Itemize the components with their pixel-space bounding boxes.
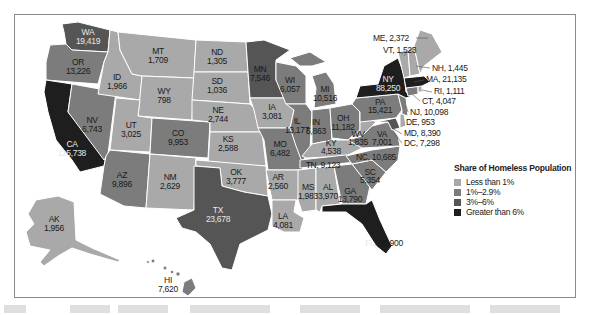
label-mn: MN7,546 (250, 64, 270, 83)
legend-item-greater-than-6: Greater than 6% (454, 207, 571, 217)
cropped-caption (0, 302, 591, 315)
svg-text:5,354: 5,354 (360, 175, 380, 185)
svg-text:19,419: 19,419 (76, 36, 101, 46)
label-az: AZ9,896 (112, 170, 132, 189)
label-hi: HI7,620 (158, 275, 178, 294)
label-tn: TN, 9,123 (306, 160, 341, 170)
svg-text:6,743: 6,743 (82, 124, 102, 134)
label-la: LA4,081 (273, 211, 293, 230)
label-ny: NY88,250 (376, 74, 401, 93)
callout-ri: RI, 1,111 (434, 86, 465, 96)
label-va: VA7,001 (372, 129, 392, 147)
callout-md: MD, 8,390 (404, 128, 441, 138)
label-tx: TX23,678 (206, 205, 231, 224)
svg-text:4,081: 4,081 (273, 220, 293, 230)
label-ak: AK1,956 (44, 214, 64, 233)
svg-text:7,001: 7,001 (372, 137, 392, 147)
svg-text:2,744: 2,744 (208, 114, 228, 124)
legend-swatch (454, 179, 461, 186)
callout-nj: NJ, 10,098 (410, 107, 449, 117)
label-id: ID1,966 (107, 72, 127, 91)
label-mi: MI10,516 (313, 84, 338, 103)
svg-text:13,790: 13,790 (338, 194, 363, 204)
legend-swatch (454, 189, 461, 196)
svg-text:13,226: 13,226 (66, 66, 91, 76)
callout-dc: DC, 7,298 (404, 138, 440, 148)
label-nv: NV6,743 (82, 115, 102, 134)
svg-text:23,678: 23,678 (206, 214, 231, 224)
label-in: IN5,863 (306, 117, 326, 136)
label-ia: IA3,081 (262, 102, 282, 121)
label-ne: NE2,744 (208, 105, 228, 124)
svg-text:1,983: 1,983 (298, 191, 318, 201)
label-ky: KY4,538 (321, 138, 341, 156)
label-wv: WV1,835 (348, 129, 368, 147)
svg-text:1,835: 1,835 (348, 137, 368, 147)
svg-text:88,250: 88,250 (376, 83, 401, 93)
callout-vt: VT, 1,523 (383, 45, 417, 55)
label-ut: UT3,025 (121, 120, 141, 139)
state-labels: WA19,419 OR13,226 CA115,738 NV6,743 ID1,… (0, 0, 591, 315)
svg-text:1,709: 1,709 (148, 55, 168, 65)
svg-text:7,620: 7,620 (158, 284, 178, 294)
svg-text:115,738: 115,738 (58, 148, 87, 158)
label-pa: PA15,421 (368, 97, 393, 115)
label-nd: ND1,305 (207, 47, 227, 66)
label-sd: SD1,036 (207, 76, 227, 95)
legend-swatch (454, 199, 461, 206)
svg-text:7,546: 7,546 (250, 73, 270, 83)
svg-text:798: 798 (157, 95, 171, 105)
label-mt: MT1,709 (148, 46, 168, 65)
svg-text:3,025: 3,025 (121, 129, 141, 139)
label-ks: KS2,588 (218, 134, 238, 153)
svg-text:2,629: 2,629 (160, 181, 180, 191)
legend-label: Less than 1% (466, 177, 514, 187)
label-mo: MO6,482 (270, 139, 290, 158)
legend-title: Share of Homeless Population (454, 163, 571, 173)
svg-text:9,953: 9,953 (168, 137, 188, 147)
svg-text:1,305: 1,305 (207, 56, 227, 66)
svg-text:3,970: 3,970 (318, 191, 338, 201)
legend-label: 1%–2.9% (466, 187, 500, 197)
svg-text:6,482: 6,482 (270, 148, 290, 158)
label-co: CO9,953 (168, 128, 188, 147)
svg-text:6,057: 6,057 (280, 84, 300, 94)
legend-item-less-than-1: Less than 1% (454, 177, 571, 187)
label-nm: NM2,629 (160, 172, 180, 191)
legend-item-1-to-2-9: 1%–2.9% (454, 187, 571, 197)
svg-text:5,863: 5,863 (306, 126, 326, 136)
legend-label: Greater than 6% (466, 207, 524, 217)
legend-swatch (454, 209, 461, 216)
label-fl: FL, 35,900 (365, 238, 403, 248)
label-nc: NC, 10,685 (356, 152, 397, 162)
svg-text:3,777: 3,777 (226, 176, 246, 186)
label-ga: GA13,790 (338, 186, 363, 204)
svg-text:10,516: 10,516 (313, 93, 338, 103)
svg-text:2,588: 2,588 (218, 143, 238, 153)
legend-item-3-to-6: 3%–6% (454, 197, 571, 207)
label-or: OR13,226 (66, 57, 91, 76)
svg-text:1,966: 1,966 (107, 81, 127, 91)
label-ca: CA115,738 (58, 139, 87, 158)
svg-text:1,036: 1,036 (207, 85, 227, 95)
callout-ma: MA, 21,135 (426, 74, 467, 84)
label-wy: WY798 (157, 86, 171, 105)
svg-text:4,538: 4,538 (321, 146, 341, 156)
callout-de: DE, 953 (406, 117, 435, 127)
svg-text:9,896: 9,896 (112, 179, 132, 189)
label-al: AL3,970 (318, 182, 338, 201)
svg-text:1,956: 1,956 (44, 223, 64, 233)
label-wa: WA19,419 (76, 27, 101, 46)
label-sc: SC5,354 (360, 167, 380, 185)
label-ok: OK3,777 (226, 167, 246, 186)
legend-label: 3%–6% (466, 197, 494, 207)
callout-ct: CT, 4,047 (422, 96, 456, 106)
svg-text:2,560: 2,560 (268, 181, 288, 191)
label-wi: WI6,057 (280, 75, 300, 94)
label-ar: AR2,560 (268, 172, 288, 191)
callout-nh: NH, 1,445 (432, 63, 468, 73)
svg-text:3,081: 3,081 (262, 111, 282, 121)
label-ms: MS1,983 (298, 182, 318, 201)
legend: Share of Homeless Population Less than 1… (454, 163, 571, 217)
callout-me: ME, 2,372 (373, 33, 410, 43)
